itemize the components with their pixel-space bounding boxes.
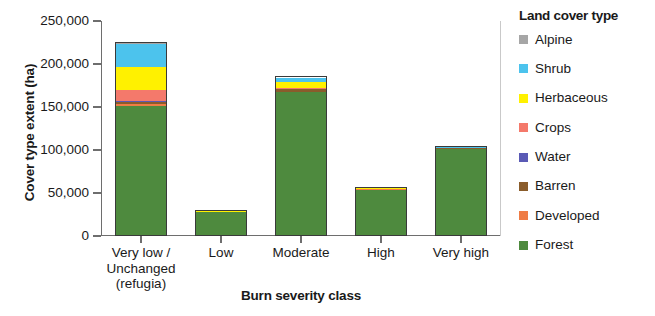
x-axis-tick — [140, 236, 142, 243]
y-axis-tick-label: 250,000 — [40, 14, 89, 27]
x-axis-tick — [380, 236, 382, 243]
stacked-bar[interactable] — [115, 42, 167, 236]
legend-item-label: Barren — [535, 179, 576, 193]
legend-item[interactable]: Barren — [519, 179, 655, 194]
legend-swatch-icon — [519, 241, 528, 250]
legend-swatch-icon — [519, 153, 528, 162]
y-axis-tick-label: 200,000 — [40, 57, 89, 70]
bar-segment — [116, 106, 166, 235]
legend-swatch-icon — [519, 94, 528, 103]
bar-segment — [116, 67, 166, 91]
y-axis-tick — [93, 106, 101, 108]
x-axis-tick — [300, 236, 302, 243]
y-axis-tick — [93, 20, 101, 22]
bars-layer — [101, 21, 501, 236]
x-axis-tick-label: Very high — [421, 245, 501, 261]
x-axis-tick — [460, 236, 462, 243]
bar-slot — [115, 21, 167, 236]
bar-segment — [116, 90, 166, 101]
x-axis-title: Burn severity class — [101, 288, 501, 303]
legend-items: AlpineShrubHerbaceousCropsWaterBarrenDev… — [519, 32, 655, 253]
x-axis-tick-label: Moderate — [261, 245, 341, 261]
legend-item-label: Herbaceous — [535, 91, 608, 105]
stacked-bar-chart: Cover type extent (ha) 050,000100,000150… — [0, 0, 655, 316]
legend-swatch-icon — [519, 182, 528, 191]
y-axis-tick-label: 150,000 — [40, 100, 89, 113]
legend-swatch-icon — [519, 64, 528, 73]
y-axis-tick-label: 50,000 — [48, 186, 89, 199]
legend-item[interactable]: Developed — [519, 208, 655, 223]
stacked-bar[interactable] — [435, 146, 487, 236]
legend-item-label: Water — [535, 150, 571, 164]
y-axis-tick — [93, 235, 101, 237]
legend-title: Land cover type — [519, 8, 655, 23]
legend: Land cover type AlpineShrubHerbaceousCro… — [519, 8, 655, 267]
legend-swatch-icon — [519, 35, 528, 44]
legend-item[interactable]: Forest — [519, 238, 655, 253]
legend-swatch-icon — [519, 211, 528, 220]
x-axis-tick-label: Low — [181, 245, 261, 261]
legend-item-label: Forest — [535, 238, 573, 252]
x-axis-tick-label: Very low / Unchanged (refugia) — [101, 245, 181, 292]
y-axis-tick-label: 100,000 — [40, 143, 89, 156]
bar-segment — [116, 44, 166, 67]
legend-item[interactable]: Water — [519, 150, 655, 165]
y-axis-tick — [93, 192, 101, 194]
y-axis-tick-label: 0 — [81, 229, 89, 242]
legend-item-label: Crops — [535, 121, 571, 135]
x-axis-tick — [220, 236, 222, 243]
bar-slot — [435, 21, 487, 236]
bar-segment — [436, 149, 486, 235]
legend-item[interactable]: Shrub — [519, 61, 655, 76]
bar-slot — [195, 21, 247, 236]
x-axis-tick-label: High — [341, 245, 421, 261]
legend-item-label: Shrub — [535, 62, 571, 76]
bar-slot — [275, 21, 327, 236]
legend-item[interactable]: Alpine — [519, 32, 655, 47]
stacked-bar[interactable] — [275, 76, 327, 236]
legend-item[interactable]: Herbaceous — [519, 91, 655, 106]
bar-segment — [276, 92, 326, 235]
stacked-bar[interactable] — [195, 210, 247, 236]
y-axis-title: Cover type extent (ha) — [22, 18, 37, 248]
y-axis-tick — [93, 63, 101, 65]
legend-item[interactable]: Crops — [519, 120, 655, 135]
stacked-bar[interactable] — [355, 187, 407, 236]
bar-segment — [196, 212, 246, 235]
legend-swatch-icon — [519, 123, 528, 132]
y-axis-tick — [93, 149, 101, 151]
legend-item-label: Alpine — [535, 33, 573, 47]
bar-segment — [356, 190, 406, 235]
bar-slot — [355, 21, 407, 236]
legend-item-label: Developed — [535, 209, 600, 223]
